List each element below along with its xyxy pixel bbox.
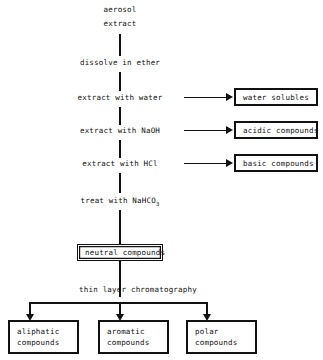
final-label-polar-line2: compounds bbox=[195, 337, 255, 348]
product-label-water-solubles: water solubles bbox=[243, 92, 316, 103]
branch-line-water-solubles bbox=[184, 97, 228, 99]
final-box-aromatic-compounds: aromatic compounds bbox=[98, 320, 169, 354]
start-label-line2: extract bbox=[103, 19, 136, 29]
start-label-line1: aerosol bbox=[103, 5, 136, 15]
connector-dissolve-to-water bbox=[119, 72, 121, 91]
final-label-aromatic-line1: aromatic bbox=[107, 326, 167, 337]
product-box-water-solubles: water solubles bbox=[234, 88, 318, 106]
connector-nahco3-to-neutral bbox=[119, 210, 121, 244]
arrow-right-icon-basic-compounds bbox=[226, 159, 233, 167]
connector-naoh-to-hcl bbox=[119, 140, 121, 158]
connector-hcl-to-nahco3 bbox=[119, 173, 121, 193]
branch-line-basic-compounds bbox=[184, 163, 228, 165]
final-label-aromatic-line2: compounds bbox=[107, 337, 167, 348]
intermediate-label-neutral-compounds: neutral compounds bbox=[85, 247, 162, 258]
step-label-tlc: thin layer chromatography bbox=[79, 285, 197, 295]
final-box-polar-compounds: polar compounds bbox=[186, 320, 257, 354]
flowchart-diagram: aerosol extract dissolve in ether extrac… bbox=[0, 0, 323, 360]
step-label-extract-naoh: extract with NaOH bbox=[80, 126, 160, 136]
step-label-treat-nahco3-text: treat with NaHCO bbox=[80, 196, 155, 205]
final-label-polar-line1: polar bbox=[195, 326, 255, 337]
step-label-treat-nahco3: treat with NaHCO3 bbox=[80, 196, 159, 207]
connector-water-to-naoh bbox=[119, 107, 121, 125]
final-box-aliphatic-compounds: aliphatic compounds bbox=[8, 320, 79, 354]
arrow-right-icon-acidic-compounds bbox=[226, 126, 233, 134]
product-label-basic-compounds: basic compounds bbox=[243, 158, 316, 169]
arrow-right-icon-water-solubles bbox=[226, 93, 233, 101]
final-label-aliphatic-line2: compounds bbox=[17, 337, 77, 348]
product-box-acidic-compounds: acidic compounds bbox=[234, 121, 318, 139]
step-label-extract-water: extract with water bbox=[78, 93, 163, 103]
branch-line-acidic-compounds bbox=[184, 130, 228, 132]
product-box-basic-compounds: basic compounds bbox=[234, 154, 318, 172]
step-label-extract-hcl: extract with HCl bbox=[82, 159, 157, 169]
final-label-aliphatic-line1: aliphatic bbox=[17, 326, 77, 337]
connector-start-to-dissolve bbox=[119, 34, 121, 56]
product-label-acidic-compounds: acidic compounds bbox=[243, 125, 316, 136]
intermediate-box-neutral-compounds: neutral compounds bbox=[77, 244, 163, 261]
step-label-treat-nahco3-subscript: 3 bbox=[156, 201, 160, 207]
step-label-dissolve: dissolve in ether bbox=[80, 58, 160, 68]
